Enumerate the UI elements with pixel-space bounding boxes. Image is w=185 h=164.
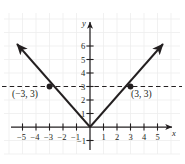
- point-label-left: (−3, 3): [12, 90, 38, 100]
- point-label-right: (3, 3): [131, 90, 152, 100]
- y-tick-label-1: 1: [81, 110, 85, 119]
- data-point-left: [47, 84, 53, 90]
- y-tick-label-4: 4: [81, 69, 85, 78]
- x-axis-label: x: [172, 129, 176, 138]
- x-tick-label-neg4: −4: [31, 133, 40, 142]
- y-tick-label-5: 5: [81, 56, 85, 65]
- curve-right-ray: [90, 44, 163, 127]
- curve-left-ray: [17, 44, 90, 127]
- y-axis-label: y: [82, 19, 86, 28]
- y-tick-label-3: 3: [81, 83, 85, 92]
- y-tick-label-2: 2: [81, 96, 85, 105]
- x-tick-label-neg2: −2: [58, 133, 67, 142]
- x-tick-label-1: 1: [102, 133, 106, 142]
- x-tick-label-5: 5: [156, 133, 160, 142]
- graph-figure: −5 −4 −3 −2 −1 1 2 3 4 5 6 5 4 3 2 1 −1 …: [0, 0, 185, 164]
- y-tick-label-6: 6: [81, 42, 85, 51]
- x-tick-label-neg3: −3: [44, 133, 53, 142]
- y-tick-label-neg1: −1: [77, 137, 86, 146]
- x-tick-label-4: 4: [142, 133, 146, 142]
- x-tick-label-3: 3: [129, 133, 133, 142]
- x-tick-label-2: 2: [115, 133, 119, 142]
- x-tick-label-neg5: −5: [17, 133, 26, 142]
